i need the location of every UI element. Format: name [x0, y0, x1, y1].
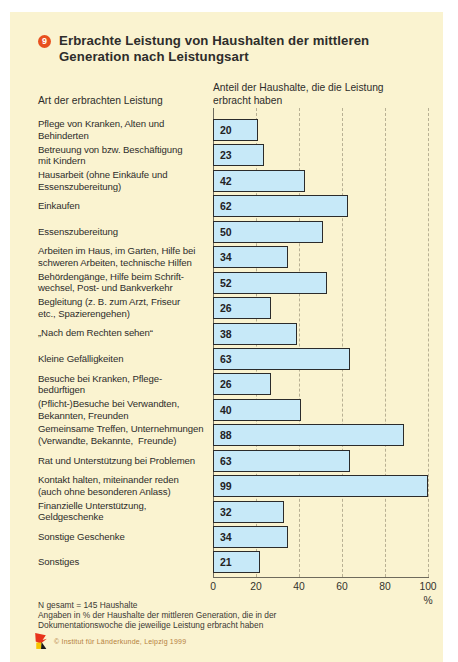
- bar: 26: [213, 297, 271, 319]
- bar-row: 34: [213, 526, 428, 551]
- category-label-row: Einkaufen: [38, 195, 214, 220]
- bar: 26: [213, 373, 271, 395]
- category-label: Arbeiten im Haus, im Garten, Hilfe bei s…: [38, 245, 195, 268]
- category-label-row: Pflege von Kranken, Alten und Behinderte…: [38, 119, 214, 144]
- bar-row: 63: [213, 450, 428, 475]
- bar-row: 23: [213, 144, 428, 169]
- category-label: Finanzielle Unterstützung, Geldgeschenke: [38, 500, 146, 523]
- category-label: Hausarbeit (ohne Einkäufe und Essenszube…: [38, 169, 167, 192]
- category-label-row: Sonstiges: [38, 551, 214, 576]
- bar-value-label: 38: [214, 328, 232, 340]
- category-label: Sonstiges: [38, 556, 79, 568]
- category-label: Kleine Gefälligkeiten: [38, 353, 123, 365]
- bar-row: 52: [213, 272, 428, 297]
- bar: 52: [213, 272, 327, 294]
- bar: 38: [213, 323, 297, 345]
- bar-value-label: 52: [214, 277, 232, 289]
- bar-row: 40: [213, 399, 428, 424]
- category-label-row: Behördengänge, Hilfe beim Schrift- wechs…: [38, 272, 214, 297]
- footnote-line-3: Dokumentationswoche die jeweilige Leistu…: [38, 620, 276, 630]
- bar-row: 32: [213, 501, 428, 526]
- copyright-text: © Institut für Länderkunde, Leipzig 1999: [54, 638, 186, 645]
- category-label-row: Essenszubereitung: [38, 221, 214, 246]
- institute-logo-icon: [33, 633, 48, 650]
- bar: 63: [213, 450, 350, 472]
- figure-number-badge: 9: [38, 35, 51, 48]
- category-label-row: Besuche bei Kranken, Pflege- bedürftigen: [38, 373, 214, 398]
- bar-value-label: 62: [214, 200, 232, 212]
- chart-title: Erbrachte Leistung von Haushalten der mi…: [59, 33, 369, 64]
- bar: 63: [213, 348, 350, 370]
- category-label: Kontakt halten, miteinander reden (auch …: [38, 474, 179, 497]
- category-label: Rat und Unterstützung bei Problemen: [38, 455, 195, 467]
- bar-row: 26: [213, 297, 428, 322]
- bar-value-label: 23: [214, 149, 232, 161]
- category-label-row: Hausarbeit (ohne Einkäufe und Essenszube…: [38, 170, 214, 195]
- footnote-line-2: Angaben in % der Haushalte der mittleren…: [38, 610, 276, 620]
- bar-chart: 202342625034522638632640886399323421 020…: [213, 119, 428, 619]
- bar-value-label: 34: [214, 251, 232, 263]
- x-tick-label: 20: [250, 581, 261, 592]
- bar-value-label: 63: [214, 455, 232, 467]
- bar: 99: [213, 475, 428, 497]
- bar-row: 38: [213, 323, 428, 348]
- x-tick-label: 80: [379, 581, 390, 592]
- bar: 21: [213, 551, 260, 573]
- category-label: Gemeinsame Treffen, Unternehmungen (Verw…: [38, 423, 203, 446]
- category-label: Pflege von Kranken, Alten und Behinderte…: [38, 118, 164, 141]
- category-label-row: Rat und Unterstützung bei Problemen: [38, 450, 214, 475]
- bar-row: 63: [213, 348, 428, 373]
- bar: 32: [213, 501, 284, 523]
- category-label: Behördengänge, Hilfe beim Schrift- wechs…: [38, 271, 184, 294]
- x-axis-line: [213, 577, 429, 578]
- x-tick-label: 60: [336, 581, 347, 592]
- bar: 88: [213, 424, 404, 446]
- bars-area: 202342625034522638632640886399323421: [213, 119, 428, 577]
- bar-row: 50: [213, 221, 428, 246]
- bar: 23: [213, 144, 264, 166]
- page: 9 Erbrachte Leistung von Haushalten der …: [0, 0, 458, 662]
- category-label-row: Betreuung von bzw. Beschäftigung mit Kin…: [38, 144, 214, 169]
- bar-value-label: 42: [214, 175, 232, 187]
- category-label: Besuche bei Kranken, Pflege- bedürftigen: [38, 373, 162, 396]
- bar-row: 20: [213, 119, 428, 144]
- bar-row: 26: [213, 373, 428, 398]
- axis-unit-label: %: [423, 595, 432, 606]
- category-label: (Pflicht-)Besuche bei Verwandten, Bekann…: [38, 398, 179, 421]
- bar-value-label: 63: [214, 353, 232, 365]
- bar: 40: [213, 399, 301, 421]
- x-axis-ticks: 020406080100: [213, 581, 428, 595]
- category-label: Sonstige Geschenke: [38, 531, 125, 543]
- bar: 62: [213, 195, 348, 217]
- category-label: Betreuung von bzw. Beschäftigung mit Kin…: [38, 144, 183, 167]
- footnote-sample-size: N gesamt = 145 Haushalte: [38, 600, 276, 610]
- x-tick-label: 40: [293, 581, 304, 592]
- bar-value-label: 26: [214, 378, 232, 390]
- bar-row: 21: [213, 551, 428, 576]
- bar-value-label: 32: [214, 506, 232, 518]
- bar: 42: [213, 170, 305, 192]
- bar: 50: [213, 221, 323, 243]
- category-label-row: Finanzielle Unterstützung, Geldgeschenke: [38, 501, 214, 526]
- bar-value-label: 26: [214, 302, 232, 314]
- bar-value-label: 99: [214, 480, 232, 492]
- category-label: Begleitung (z. B. zum Arzt, Friseur etc.…: [38, 296, 180, 319]
- bar-value-label: 88: [214, 429, 232, 441]
- x-tick-label: 0: [210, 581, 216, 592]
- category-label-row: „Nach dem Rechten sehen“: [38, 323, 214, 348]
- category-label: „Nach dem Rechten sehen“: [38, 327, 153, 339]
- category-label-row: Begleitung (z. B. zum Arzt, Friseur etc.…: [38, 297, 214, 322]
- bar-row: 88: [213, 424, 428, 449]
- gridline: [428, 108, 429, 577]
- title-row: 9 Erbrachte Leistung von Haushalten der …: [38, 33, 369, 64]
- bar: 20: [213, 119, 258, 141]
- category-label: Einkaufen: [38, 200, 80, 212]
- category-label-row: Sonstige Geschenke: [38, 526, 214, 551]
- category-label: Essenszubereitung: [38, 226, 118, 238]
- left-column-header: Art der erbrachten Leistung: [38, 95, 163, 108]
- bar: 34: [213, 526, 288, 548]
- bar-row: 42: [213, 170, 428, 195]
- bar-row: 34: [213, 246, 428, 271]
- category-label-row: (Pflicht-)Besuche bei Verwandten, Bekann…: [38, 399, 214, 424]
- credit-row: © Institut für Länderkunde, Leipzig 1999: [33, 633, 186, 650]
